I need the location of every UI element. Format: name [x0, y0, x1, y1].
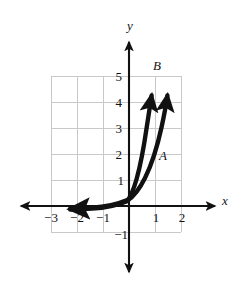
x-tick-labels: −3 −2 −1 1 2 [44, 210, 185, 225]
x-axis-name: x [221, 193, 228, 208]
x-tick-label-neg3: −3 [44, 210, 58, 225]
graph-canvas: 5 4 3 2 1 −1 −3 −2 −1 1 2 x y B A [0, 0, 242, 286]
y-tick-label-1: 1 [118, 173, 125, 188]
x-tick-label-neg2: −2 [70, 210, 84, 225]
y-tick-label-neg1: −1 [114, 227, 128, 242]
curve-b-label: B [153, 58, 161, 73]
y-tick-label-4: 4 [116, 95, 123, 110]
x-tick-label-neg1: −1 [96, 210, 110, 225]
y-tick-labels: 5 4 3 2 1 −1 [114, 69, 128, 242]
y-tick-label-3: 3 [116, 121, 123, 136]
y-tick-label-5: 5 [116, 69, 123, 84]
y-tick-label-2: 2 [116, 147, 123, 162]
x-tick-label-2: 2 [179, 210, 186, 225]
y-axis-name: y [125, 18, 133, 33]
curve-a-label: A [158, 148, 167, 163]
exponential-graph-figure: 5 4 3 2 1 −1 −3 −2 −1 1 2 x y B A [0, 0, 242, 286]
x-tick-label-1: 1 [153, 210, 160, 225]
curve-shared-left-tail [71, 201, 128, 210]
